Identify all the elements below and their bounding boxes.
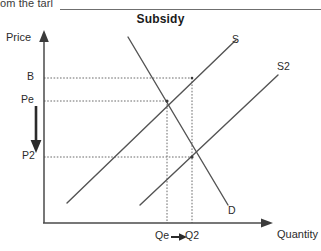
- supply-curve-S2: [140, 75, 278, 205]
- price-tick-label-p2: P2: [22, 149, 35, 161]
- price-tick-label-b: B: [27, 70, 34, 82]
- dotted-guide-lines: [44, 78, 192, 223]
- curve-label-s: S: [232, 33, 239, 45]
- y-axis-arrowhead-icon: [39, 30, 49, 42]
- price-tick-label-pe: Pe: [21, 93, 34, 105]
- subsidy-diagram-page: om the tarl Subsidy: [0, 0, 321, 251]
- quantity-tick-label-qe: Qe: [155, 229, 169, 241]
- equilibrium-point-original: [165, 99, 168, 102]
- quantity-tick-label-q2: Q2: [185, 229, 199, 241]
- curve-label-d: D: [228, 204, 236, 216]
- annotation-arrows: [31, 106, 187, 241]
- x-axis-arrowhead-icon: [261, 218, 273, 227]
- x-axis-label: Quantity: [277, 228, 318, 240]
- supply-curve-S: [67, 40, 236, 203]
- equilibrium-point-after-subsidy: [190, 155, 193, 158]
- curve-label-s2: S2: [277, 60, 290, 72]
- axes-group: [43, 38, 266, 223]
- y-axis-label: Price: [6, 31, 31, 43]
- curves-group: [67, 37, 278, 205]
- producer-price-point: [191, 77, 194, 80]
- equilibrium-points: [165, 77, 193, 159]
- subsidy-supply-demand-chart: [0, 0, 321, 251]
